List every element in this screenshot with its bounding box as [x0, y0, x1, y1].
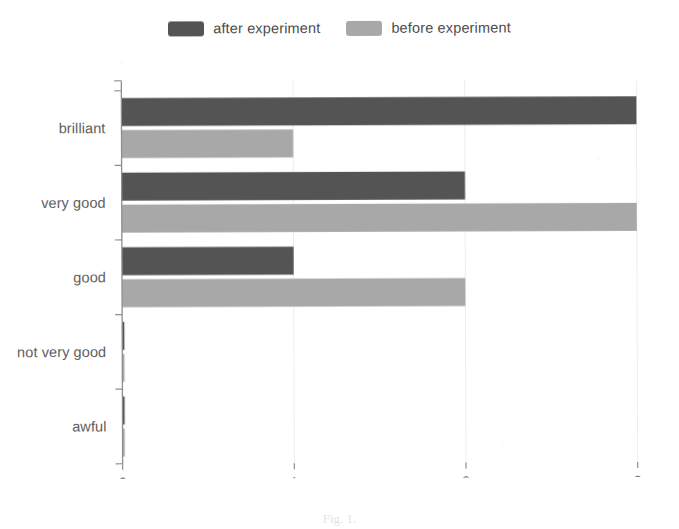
y-axis-label-good: good — [73, 269, 106, 285]
chart-legend: after experiment before experiment — [0, 19, 679, 37]
figure-caption-clipped: Fig. 1. — [0, 515, 679, 529]
y-axis-label-awful: awful — [72, 419, 106, 435]
y-axis-label-brilliant: brilliant — [59, 120, 106, 136]
gridline-vertical — [636, 79, 637, 462]
chart-svg-canvas: brilliantvery goodgoodnot very goodawful… — [0, 77, 679, 479]
y-axis-label-very-good: very good — [41, 195, 106, 211]
legend-swatch-after-icon — [168, 21, 204, 36]
bar-before-experiment-very-good — [122, 203, 637, 233]
bar-before-experiment-brilliant — [121, 129, 293, 158]
legend-item-after-experiment: after experiment — [168, 20, 320, 36]
legend-swatch-before-icon — [346, 20, 382, 35]
legend-label-before: before experiment — [391, 20, 510, 36]
bar-after-experiment-very-good — [122, 171, 465, 200]
gridline-vertical — [465, 80, 466, 463]
y-axis-label-not-very-good: not very good — [17, 344, 106, 360]
legend-label-after: after experiment — [213, 20, 320, 36]
bar-after-experiment-good — [122, 247, 294, 276]
figure-caption-text: Fig. 1. — [323, 515, 357, 527]
bar-after-experiment-brilliant — [121, 96, 636, 126]
bar-before-experiment-good — [122, 278, 465, 307]
x-axis-tick-label-0: 0 — [119, 475, 127, 479]
bar-chart-plot: brilliantvery goodgoodnot very goodawful… — [0, 77, 679, 479]
legend-item-before-experiment: before experiment — [346, 20, 510, 36]
